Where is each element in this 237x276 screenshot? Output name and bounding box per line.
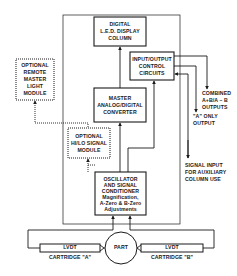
hilo-label: OPTIONAL HI/LO SIGNAL MODULE xyxy=(68,128,110,158)
part-label: PART xyxy=(105,244,137,251)
remote-light-label: OPTIONAL REMOTE MASTER LIGHT MODULE xyxy=(16,59,54,100)
led-display-label: DIGITAL L.E.D. DISPLAY COLUMN xyxy=(94,17,146,46)
lvdt-b-label: LVDT xyxy=(141,244,203,251)
adc-label: MASTER ANALOG/DIGITAL CONVERTER xyxy=(94,88,146,122)
a-only-output-label: "A" ONLY OUTPUT xyxy=(193,113,218,127)
combined-outputs-label: COMBINED A+B/A – B OUTPUTS xyxy=(202,90,231,111)
io-control-label: INPUT/OUTPUT CONTROL CIRCUITS xyxy=(130,52,174,80)
oscillator-label: OSCILLATOR AND SIGNAL CONDITIONER Magnif… xyxy=(95,172,146,215)
lvdt-a-label: LVDT xyxy=(40,244,100,251)
cartridge-b-caption: CARTRIDGE "B" xyxy=(141,254,203,261)
aux-input-label: SIGNAL INPUT FOR AUXILIARY COLUMN USE xyxy=(185,162,226,183)
cartridge-a-caption: CARTRIDGE "A" xyxy=(40,254,100,261)
